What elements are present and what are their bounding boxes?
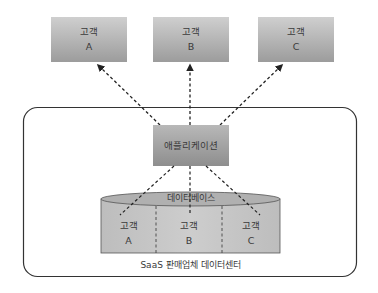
customer-c-line1: 고객 <box>258 24 334 39</box>
customer-b-line2: B <box>153 39 229 54</box>
partition-a-line2: A <box>101 233 156 248</box>
arrow-to-customer-a <box>98 65 160 125</box>
customer-a-label: 고객 A <box>51 24 127 54</box>
partition-a-line1: 고객 <box>101 218 156 233</box>
partition-c-label: 고객 C <box>222 218 280 248</box>
customer-a-line2: A <box>51 39 127 54</box>
partition-c-line2: C <box>222 233 280 248</box>
application-label: 애플리케이션 <box>153 138 229 153</box>
customer-b-label: 고객 B <box>153 24 229 54</box>
customer-b-line1: 고객 <box>153 24 229 39</box>
customer-a-line1: 고객 <box>51 24 127 39</box>
datacenter-label: SaaS 판매업체 데이터센터 <box>101 258 280 273</box>
database-label: 데이터베이스 <box>101 191 280 206</box>
customer-c-label: 고객 C <box>258 24 334 54</box>
partition-b-line2: B <box>156 233 222 248</box>
partition-b-line1: 고객 <box>156 218 222 233</box>
partition-c-line1: 고객 <box>222 218 280 233</box>
partition-b-label: 고객 B <box>156 218 222 248</box>
partition-a-label: 고객 A <box>101 218 156 248</box>
customer-c-line2: C <box>258 39 334 54</box>
arrow-to-customer-c <box>220 65 282 125</box>
